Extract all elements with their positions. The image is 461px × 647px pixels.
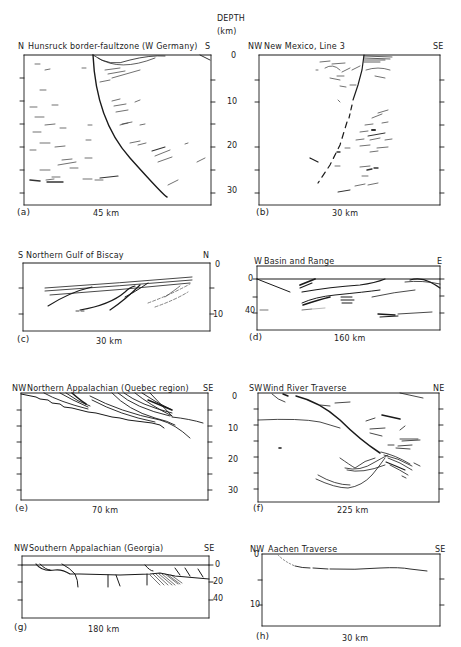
panel-a-reflectors <box>30 64 205 185</box>
panel-e-thrusts <box>21 393 203 438</box>
panel-h-structures <box>278 555 427 571</box>
panel-g-structures <box>36 564 209 587</box>
panel-b-fault <box>310 55 392 183</box>
panel-g-frame <box>18 556 213 618</box>
panel-h-frame <box>258 554 444 626</box>
panel-d-structures <box>257 279 440 317</box>
panel-a-fault <box>93 55 210 197</box>
panel-b-reflectors <box>316 61 392 192</box>
panel-c-frame <box>19 263 214 331</box>
panel-f-structures <box>258 393 423 488</box>
panel-f-frame <box>254 393 443 502</box>
panel-b-frame <box>255 55 444 205</box>
cross-section-drawings <box>0 0 461 647</box>
panel-d-frame <box>253 266 444 330</box>
panel-e-frame <box>17 393 212 500</box>
panel-c-structures <box>45 277 192 311</box>
